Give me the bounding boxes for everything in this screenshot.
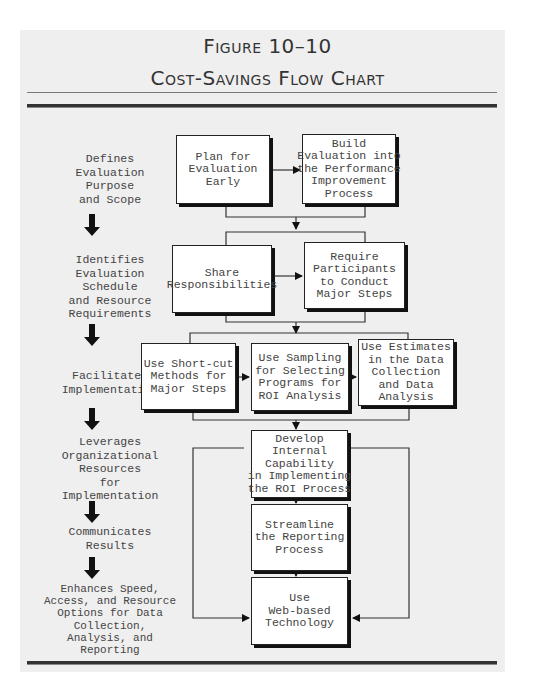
box-build-into-process: Build Evaluation into the Performance Im… bbox=[302, 134, 396, 204]
box-short-cut-methods: Use Short-cut Methods for Major Steps bbox=[141, 343, 236, 410]
box-web-based-technology: Use Web-based Technology bbox=[251, 577, 348, 645]
down-arrow-icon bbox=[84, 214, 100, 236]
down-arrow-icon bbox=[84, 501, 100, 523]
stage-label-schedule: Identifies Evaluation Schedule and Resou… bbox=[40, 253, 180, 321]
box-plan-early: Plan for Evaluation Early bbox=[176, 135, 270, 204]
stage-label-enhance: Enhances Speed, Access, and Resource Opt… bbox=[30, 583, 190, 656]
box-develop-internal-capability: Develop Internal Capability in Implement… bbox=[251, 430, 348, 498]
stage-label-communicate: Communicates Results bbox=[40, 525, 180, 552]
box-estimates: Use Estimates in the Data Collection and… bbox=[358, 339, 454, 406]
stage-label-leverage: Leverages Organizational Resources for I… bbox=[40, 435, 180, 503]
box-share-responsibilities: Share Responsibilities bbox=[172, 245, 272, 313]
box-require-participants: Require Participants to Conduct Major St… bbox=[304, 242, 405, 309]
box-streamline-reporting: Streamline the Reporting Process bbox=[251, 504, 348, 571]
stage-label-scope: Defines Evaluation Purpose and Scope bbox=[40, 152, 180, 206]
down-arrow-icon bbox=[84, 324, 100, 346]
box-sampling: Use Sampling for Selecting Programs for … bbox=[251, 343, 349, 411]
down-arrow-icon bbox=[84, 408, 100, 430]
down-arrow-icon bbox=[84, 557, 100, 579]
